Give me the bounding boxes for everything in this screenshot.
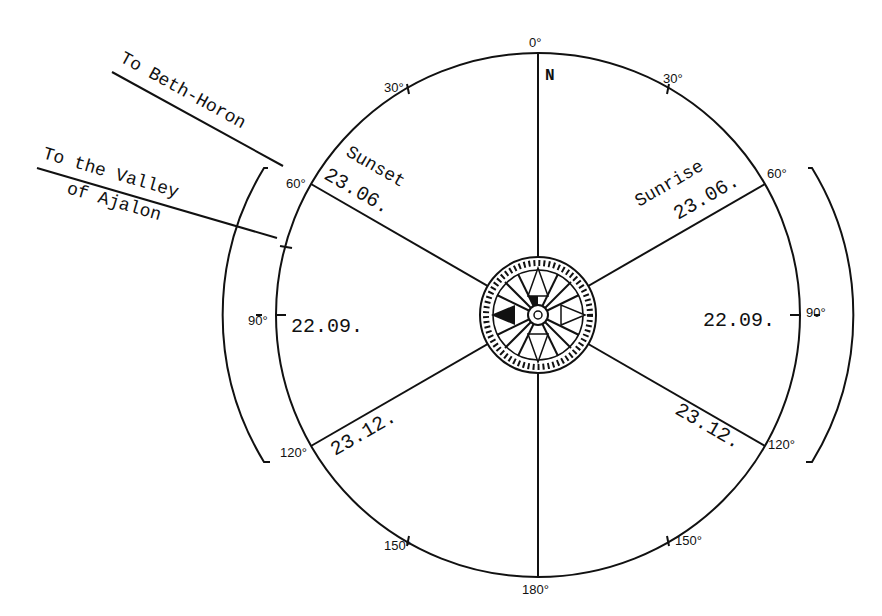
solar-orientation-diagram: N 0° 30° 30° 60° 60° 90° 90° 120° 120° 1… — [0, 0, 882, 616]
compass-rose-icon — [480, 257, 596, 373]
degree-60-left: 60° — [286, 176, 306, 191]
degree-120-right: 120° — [768, 437, 795, 452]
degree-90-left: 90° — [248, 313, 268, 328]
beth-horon-label: To Beth-Horon — [117, 48, 250, 133]
sunset-equinox-date: 22.09. — [291, 315, 363, 338]
degree-60-right: 60° — [767, 166, 787, 181]
degree-30-left: 30° — [384, 80, 404, 95]
degree-180: 180° — [522, 582, 549, 597]
sunrise-winter-date: 23.12. — [671, 398, 745, 454]
degree-150-right: 150° — [675, 533, 702, 548]
degree-0: 0° — [529, 35, 541, 50]
degree-90-right: 90° — [806, 305, 826, 320]
degree-30-right: 30° — [663, 71, 683, 86]
sunset-winter-date: 23.12. — [327, 405, 401, 461]
north-label: N — [545, 67, 555, 85]
degree-120-left: 120° — [280, 445, 307, 460]
sunrise-equinox-date: 22.09. — [703, 309, 775, 332]
degree-150-left: 150° — [384, 538, 411, 553]
